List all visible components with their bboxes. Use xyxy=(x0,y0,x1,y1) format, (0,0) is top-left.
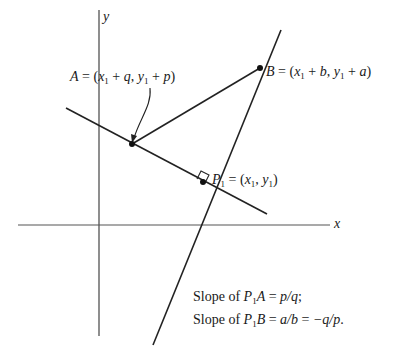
equals: = xyxy=(265,312,280,327)
equals: = xyxy=(265,289,280,304)
plus: + xyxy=(305,64,320,79)
paren-close: ) xyxy=(366,64,371,79)
equals: = xyxy=(298,312,313,327)
y-axis-label: y xyxy=(103,10,109,24)
label-point-b: B = (x1 + b, y1 + a) xyxy=(266,65,371,79)
seg-p: P xyxy=(244,289,253,304)
label-point-p1: P1 = (x1, y1) xyxy=(212,173,278,187)
equals: = xyxy=(79,69,94,84)
point-a-name: A xyxy=(70,69,79,84)
plus: + xyxy=(109,69,124,84)
pointer-arrow xyxy=(134,88,150,138)
punct: ; xyxy=(298,289,302,304)
x-axis-label: x xyxy=(334,217,340,231)
slope-value: p/q xyxy=(280,289,298,304)
paren-close: ) xyxy=(273,172,278,187)
plus: + xyxy=(344,64,359,79)
comma: , xyxy=(131,69,138,84)
seg-end: A xyxy=(257,289,266,304)
plus: + xyxy=(148,69,163,84)
point-a xyxy=(129,141,135,147)
x-offset: q xyxy=(124,69,131,84)
slope-value-neg-reciprocal: −q/p xyxy=(313,312,340,327)
label-point-a: A = (x1 + q, y1 + p) xyxy=(70,70,175,84)
punct: . xyxy=(340,312,344,327)
slope-prefix: Slope of xyxy=(193,312,244,327)
point-p-name: P xyxy=(212,172,221,187)
point-b-name: B xyxy=(266,64,275,79)
slope-p1a-text: Slope of P1A = p/q; xyxy=(193,290,302,304)
slope-value: a/b xyxy=(280,312,298,327)
paren-close: ) xyxy=(170,69,175,84)
x-offset: b xyxy=(320,64,327,79)
seg-p: P xyxy=(244,312,253,327)
diagram-canvas xyxy=(0,0,394,360)
equals: = xyxy=(225,172,240,187)
point-b xyxy=(257,65,263,71)
seg-end: B xyxy=(257,312,266,327)
comma: , xyxy=(327,64,334,79)
equals: = xyxy=(275,64,290,79)
slope-prefix: Slope of xyxy=(193,289,244,304)
point-p1 xyxy=(200,179,206,185)
slope-p1b-text: Slope of P1B = a/b = −q/p. xyxy=(193,313,344,327)
